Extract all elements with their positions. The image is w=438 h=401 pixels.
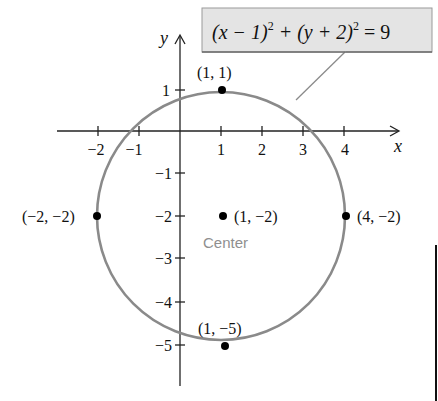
svg-text:3: 3 <box>299 141 307 158</box>
point-left <box>93 212 101 220</box>
center-caption: Center <box>203 234 248 251</box>
x-axis-label: x <box>393 136 402 156</box>
points <box>93 86 350 350</box>
svg-text:4: 4 <box>341 141 349 158</box>
svg-text:(4, −2): (4, −2) <box>357 208 401 226</box>
svg-text:−2: −2 <box>155 208 172 225</box>
svg-text:(1, 1): (1, 1) <box>197 64 232 82</box>
svg-text:1: 1 <box>162 82 170 99</box>
svg-text:−4: −4 <box>155 294 172 311</box>
page-edge-line <box>436 246 437 401</box>
svg-text:1: 1 <box>217 141 225 158</box>
x-tick-labels: −2 −1 1 2 3 4 <box>87 141 349 158</box>
y-axis-label: y <box>158 28 168 48</box>
svg-text:−1: −1 <box>125 141 142 158</box>
svg-text:−5: −5 <box>155 337 172 354</box>
circle-graph: (x − 1)2 + (y + 2)2 = 9 x y −2 −1 1 2 3 … <box>0 0 438 401</box>
equation-callout: (x − 1)2 + (y + 2)2 = 9 <box>202 8 432 100</box>
svg-text:−1: −1 <box>155 165 172 182</box>
equation-text: (x − 1)2 + (y + 2)2 = 9 <box>212 19 390 44</box>
svg-text:(−2, −2): (−2, −2) <box>22 208 75 226</box>
svg-text:−2: −2 <box>87 141 104 158</box>
point-center <box>219 212 227 220</box>
y-tick-labels: 1 −1 −2 −3 −4 −5 <box>155 82 172 354</box>
svg-text:2: 2 <box>258 141 266 158</box>
point-right <box>342 212 350 220</box>
svg-text:(1, −2): (1, −2) <box>234 208 278 226</box>
svg-text:−3: −3 <box>155 250 172 267</box>
svg-text:(1, −5): (1, −5) <box>198 320 242 338</box>
point-bottom <box>221 342 229 350</box>
point-top <box>218 86 226 94</box>
